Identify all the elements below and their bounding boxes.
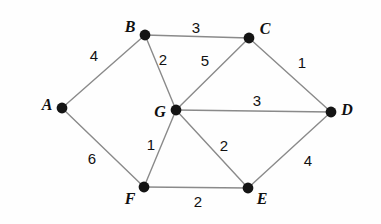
edge-g-c: [176, 38, 249, 110]
edge-a-b: [62, 35, 145, 108]
node-c: [244, 33, 255, 44]
node-d: [326, 107, 337, 118]
node-label-b: B: [125, 19, 136, 35]
edge-f-e: [144, 187, 248, 188]
node-b: [140, 30, 151, 41]
edge-weight-g-e: 2: [220, 138, 228, 153]
node-f: [139, 182, 150, 193]
node-label-d: D: [341, 102, 353, 118]
edge-weight-f-e: 2: [194, 194, 202, 209]
edges-group: [62, 35, 331, 188]
node-label-a: A: [42, 97, 53, 113]
edge-b-g: [145, 35, 176, 110]
edge-weight-g-f: 1: [147, 137, 155, 152]
edge-weight-a-f: 6: [88, 151, 96, 166]
node-a: [57, 103, 68, 114]
edge-weight-c-d: 1: [298, 55, 306, 70]
graph-canvas: [0, 0, 381, 224]
node-label-e: E: [257, 191, 268, 207]
edge-c-d: [249, 38, 331, 112]
node-e: [243, 183, 254, 194]
edge-weight-b-g: 2: [159, 52, 167, 67]
edge-weight-g-d: 3: [253, 93, 261, 108]
node-label-g: G: [154, 104, 166, 120]
edge-weight-a-b: 4: [90, 48, 98, 63]
edge-d-e: [248, 112, 331, 188]
edge-g-d: [176, 110, 331, 112]
edge-g-e: [176, 110, 248, 188]
node-g: [171, 105, 182, 116]
edge-weight-d-e: 4: [304, 153, 312, 168]
edge-a-f: [62, 108, 144, 187]
node-label-c: C: [260, 21, 271, 37]
edge-weight-b-c: 3: [192, 20, 200, 35]
node-label-f: F: [125, 191, 136, 207]
graph-figure: ABCDEFG 46325131224: [0, 0, 381, 224]
edge-weight-g-c: 5: [201, 53, 209, 68]
